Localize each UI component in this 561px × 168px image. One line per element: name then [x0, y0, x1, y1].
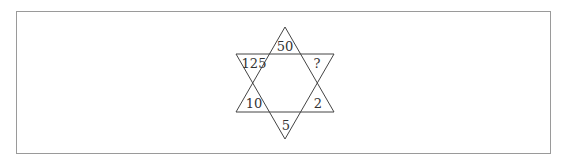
top-point-value: 50: [277, 40, 294, 53]
lower-left-point-value: 10: [246, 97, 263, 110]
upper-right-point-value: ?: [314, 57, 321, 70]
bottom-point-value: 5: [282, 119, 290, 132]
upper-left-point-value: 125: [242, 57, 267, 70]
star-of-david-diagram: [0, 0, 561, 168]
lower-right-point-value: 2: [314, 97, 322, 110]
